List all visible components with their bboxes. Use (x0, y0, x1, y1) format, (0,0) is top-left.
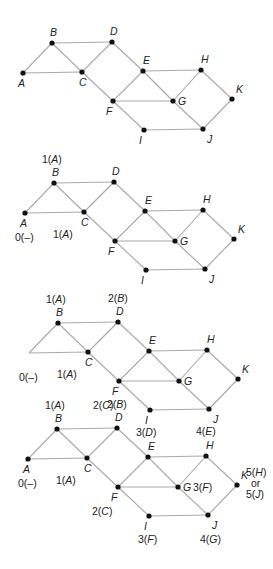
node-F (110, 98, 115, 103)
node-name-F: F (112, 385, 119, 397)
node-name-I: I (141, 274, 144, 286)
edge-A-C (29, 352, 88, 353)
node-name-G: G (183, 481, 191, 493)
node-A (20, 70, 25, 75)
edge-C-F (84, 212, 115, 241)
bfs-label-G: 3(F) (193, 481, 212, 493)
node-J (200, 126, 205, 131)
panel-4: ABCDEFGHIJK0(–)1(A)1(A)2(B)3(D)2(C)3(F)4… (18, 398, 266, 545)
edge-E-G (148, 457, 178, 487)
edge-A-B (29, 323, 58, 353)
bfs-label-C: 1(A) (53, 228, 73, 240)
node-I (147, 407, 152, 412)
node-name-B: B (55, 412, 62, 424)
node-H (204, 347, 209, 352)
edge-A-C (23, 72, 82, 73)
node-B (51, 180, 56, 185)
node-K (234, 482, 239, 487)
edge-E-G (145, 211, 175, 241)
edge-J-K (205, 239, 234, 269)
edge-A-B (25, 183, 54, 213)
node-C (84, 455, 89, 460)
bfs-label-F: 2(C) (92, 505, 112, 517)
node-name-I: I (144, 520, 147, 532)
edge-C-D (84, 182, 114, 212)
node-F (112, 238, 117, 243)
node-name-H: H (201, 53, 209, 65)
bfs-figure: ABCDEFGHIJKABCDEFGHIJK0(–)1(A)1(A)BCDEFG… (0, 0, 273, 569)
node-name-A: A (19, 217, 27, 229)
edge-A-B (23, 43, 52, 73)
edge-B-D (54, 182, 114, 183)
node-name-B: B (56, 306, 63, 318)
bfs-label-A: 0(–) (18, 477, 37, 489)
node-I (143, 267, 148, 272)
node-name-J: J (212, 413, 219, 425)
node-D (111, 179, 116, 184)
edge-E-F (118, 457, 148, 487)
node-name-A: A (22, 463, 30, 475)
bfs-label-H: 4(E) (196, 425, 216, 437)
bfs-label-D: 2(B) (107, 398, 127, 410)
node-H (203, 453, 208, 458)
node-name-K: K (242, 363, 250, 375)
edge-C-F (88, 352, 119, 381)
edge-E-F (119, 351, 149, 381)
node-name-I: I (139, 134, 142, 146)
node-name-G: G (180, 235, 188, 247)
node-name-H: H (206, 439, 214, 451)
node-name-H: H (207, 333, 215, 345)
edge-D-E (118, 322, 149, 351)
node-B (54, 426, 59, 431)
edge-I-J (146, 269, 205, 270)
edge-E-G (149, 351, 179, 381)
node-name-K: K (236, 83, 244, 95)
edge-C-D (88, 322, 118, 352)
edge-B-D (52, 42, 112, 43)
node-H (198, 67, 203, 72)
bfs-label-A: 0(–) (19, 371, 38, 383)
node-E (145, 454, 150, 459)
node-K (235, 376, 240, 381)
edge-B-D (57, 428, 117, 429)
edge-I-J (149, 515, 208, 516)
node-H (200, 207, 205, 212)
bfs-label-K-alt: 5(J) (246, 488, 264, 500)
node-name-B: B (52, 166, 59, 178)
node-name-D: D (110, 25, 118, 37)
edge-B-D (58, 322, 118, 323)
node-name-E: E (143, 54, 151, 66)
node-name-D: D (116, 305, 124, 317)
node-name-F: F (108, 245, 115, 257)
node-name-H: H (203, 193, 211, 205)
edge-H-K (203, 210, 234, 239)
bfs-label-I: 3(F) (138, 533, 157, 545)
node-B (55, 320, 60, 325)
node-name-K: K (238, 223, 246, 235)
node-D (115, 319, 120, 324)
node-name-G: G (178, 95, 186, 107)
node-G (176, 378, 181, 383)
bfs-label-C: 1(A) (57, 368, 77, 380)
node-I (146, 513, 151, 518)
edge-D-E (114, 182, 145, 211)
node-name-C: C (79, 76, 87, 88)
node-E (146, 348, 151, 353)
node-name-D: D (115, 411, 123, 423)
node-C (85, 349, 90, 354)
bfs-label-C: 1(A) (56, 474, 76, 486)
edge-B-C (54, 183, 84, 212)
edge-E-H (148, 456, 206, 457)
node-name-F: F (111, 491, 118, 503)
edge-C-F (82, 72, 113, 101)
edge-E-F (113, 71, 143, 101)
edge-B-C (58, 323, 88, 352)
node-name-B: B (50, 26, 57, 38)
node-name-J: J (211, 519, 218, 531)
node-name-E: E (149, 334, 157, 346)
edge-C-D (87, 428, 117, 458)
bfs-label-B: 1(A) (46, 293, 66, 305)
node-name-C: C (81, 216, 89, 228)
edge-E-G (143, 71, 173, 101)
node-name-F: F (106, 105, 113, 117)
